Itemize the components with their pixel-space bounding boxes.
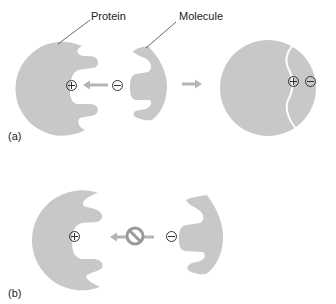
protein-label: Protein (91, 10, 126, 22)
molecule-shape-b (179, 195, 223, 274)
diagram-canvas (0, 0, 336, 304)
protein-pointer-line (58, 20, 90, 44)
blocked-arrow-head (110, 233, 117, 242)
panel-b-label: (b) (8, 287, 21, 299)
positive-charge-icon-b (69, 231, 80, 242)
molecule-pointer-line (146, 22, 176, 48)
prohibited-icon (127, 228, 143, 244)
negative-charge-icon-b (166, 231, 177, 242)
complex-shape (220, 40, 316, 136)
panel-a-label: (a) (8, 130, 21, 142)
positive-charge-icon-complex (288, 76, 299, 87)
negative-charge-icon-a (112, 80, 123, 91)
negative-charge-icon-complex (305, 76, 316, 87)
protein-shape-a (15, 42, 98, 136)
result-arrow-head (195, 80, 202, 89)
molecule-label: Molecule (179, 10, 223, 22)
positive-charge-icon-a (66, 80, 77, 91)
protein-shape-b (32, 190, 103, 290)
attraction-arrow-head (83, 81, 90, 90)
molecule-shape-a (130, 46, 167, 120)
